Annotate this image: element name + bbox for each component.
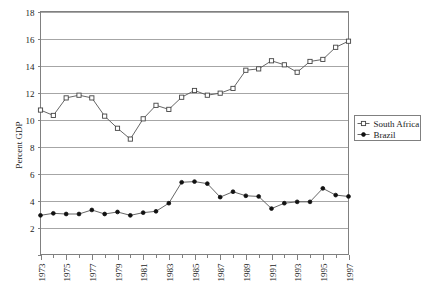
- data-point: [321, 57, 325, 61]
- series-line-1: [41, 182, 349, 216]
- data-point: [115, 126, 119, 130]
- data-point: [257, 67, 261, 71]
- data-point: [282, 201, 286, 205]
- legend-label: South Africa: [374, 119, 420, 129]
- x-tick-label-1995: 1995: [319, 263, 329, 282]
- data-point: [270, 207, 274, 211]
- data-point: [180, 95, 184, 99]
- chart-container: 24681012141618 1973197519771979198119831…: [0, 0, 422, 293]
- data-point: [128, 137, 132, 141]
- y-axis-title: Percent GDP: [14, 121, 24, 168]
- data-point: [154, 103, 158, 107]
- data-point: [244, 194, 248, 198]
- data-point: [295, 200, 299, 204]
- data-point: [347, 195, 351, 199]
- data-point: [334, 193, 338, 197]
- x-axis-tick-labels: 1973197519771979198119831985198719891991…: [37, 263, 355, 282]
- y-tick-label-12: 12: [26, 89, 35, 99]
- x-tick-label-1989: 1989: [242, 263, 252, 282]
- y-tick-label-4: 4: [30, 197, 35, 207]
- data-point: [128, 213, 132, 217]
- data-point: [90, 96, 94, 100]
- data-point: [231, 86, 235, 90]
- x-tick-label-1979: 1979: [114, 263, 124, 282]
- y-tick-label-6: 6: [30, 170, 35, 180]
- x-tick-label-1977: 1977: [88, 263, 98, 282]
- data-point: [167, 107, 171, 111]
- data-point: [77, 212, 81, 216]
- data-point: [180, 180, 184, 184]
- data-point: [321, 186, 325, 190]
- series-brazil: [39, 180, 351, 218]
- data-point: [77, 93, 81, 97]
- gridlines-group: [41, 13, 349, 229]
- legend-label: Brazil: [374, 130, 396, 140]
- data-point: [346, 39, 350, 43]
- data-point: [282, 63, 286, 67]
- data-point: [218, 91, 222, 95]
- data-point: [90, 208, 94, 212]
- data-point: [192, 88, 196, 92]
- data-point: [103, 212, 107, 216]
- x-tick-label-1997: 1997: [345, 263, 355, 282]
- data-point: [218, 195, 222, 199]
- y-axis-tick-labels: 24681012141618: [26, 8, 36, 234]
- data-point: [38, 108, 42, 112]
- x-tick-label-1983: 1983: [165, 263, 175, 282]
- y-tick-label-10: 10: [26, 116, 36, 126]
- data-point: [116, 210, 120, 214]
- data-point: [64, 212, 68, 216]
- data-point: [269, 59, 273, 63]
- y-tick-label-18: 18: [26, 8, 36, 18]
- data-point: [154, 209, 158, 213]
- legend-marker: [361, 121, 365, 125]
- series-south-africa: [38, 39, 350, 141]
- plot-area-border: [41, 12, 349, 255]
- data-point: [257, 195, 261, 199]
- data-series-group: [38, 39, 350, 217]
- data-point: [141, 117, 145, 121]
- x-tick-label-1991: 1991: [268, 264, 278, 282]
- data-point: [334, 45, 338, 49]
- data-point: [205, 93, 209, 97]
- data-point: [51, 211, 55, 215]
- x-tick-label-1973: 1973: [37, 263, 47, 282]
- x-tick-label-1987: 1987: [216, 263, 226, 282]
- data-point: [308, 200, 312, 204]
- data-point: [205, 182, 209, 186]
- y-tick-label-8: 8: [30, 143, 35, 153]
- data-point: [167, 201, 171, 205]
- data-point: [103, 114, 107, 118]
- y-tick-label-2: 2: [30, 224, 35, 234]
- x-tick-label-1993: 1993: [293, 263, 303, 282]
- y-tick-label-14: 14: [26, 62, 36, 72]
- data-point: [193, 180, 197, 184]
- tick-marks-group: [38, 13, 350, 260]
- data-point: [64, 96, 68, 100]
- data-point: [39, 213, 43, 217]
- data-point: [231, 190, 235, 194]
- y-tick-label-16: 16: [26, 35, 36, 45]
- x-tick-label-1981: 1981: [139, 264, 149, 282]
- legend-marker: [362, 133, 366, 137]
- data-point: [244, 68, 248, 72]
- x-tick-label-1985: 1985: [191, 263, 201, 282]
- data-point: [308, 59, 312, 63]
- line-chart: 24681012141618 1973197519771979198119831…: [0, 0, 422, 293]
- data-point: [51, 113, 55, 117]
- x-tick-label-1975: 1975: [62, 263, 72, 282]
- data-point: [295, 70, 299, 74]
- chart-legend[interactable]: South AfricaBrazil: [355, 116, 421, 141]
- data-point: [141, 211, 145, 215]
